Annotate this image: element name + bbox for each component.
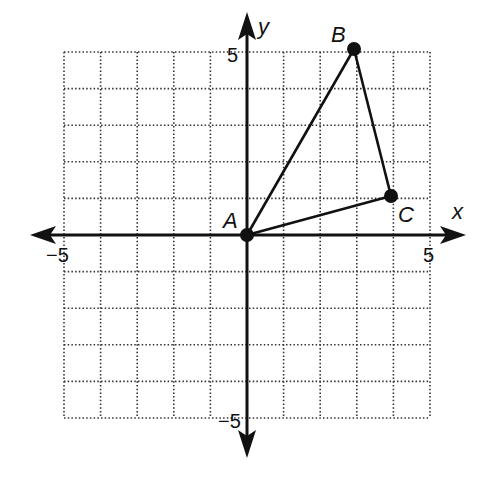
segment-ab: [247, 49, 354, 235]
point-b-label: B: [331, 22, 346, 47]
segment-ca: [247, 196, 391, 235]
y-axis-label: y: [256, 14, 271, 39]
triangle-abc: [247, 49, 391, 235]
tick-label-y-neg5: −5: [218, 410, 241, 432]
tick-label-x-pos5: 5: [423, 244, 434, 266]
point-b: [347, 42, 361, 56]
point-c-label: C: [398, 202, 414, 227]
point-a: [240, 228, 254, 242]
point-a-label: A: [221, 208, 238, 233]
x-axis-label: x: [451, 199, 464, 224]
tick-label-y-pos5: 5: [227, 44, 238, 66]
point-c: [384, 189, 398, 203]
coordinate-plane: x y −5 5 5 −5 A B C: [0, 0, 480, 485]
segment-bc: [354, 49, 391, 196]
tick-label-x-neg5: −5: [46, 244, 69, 266]
